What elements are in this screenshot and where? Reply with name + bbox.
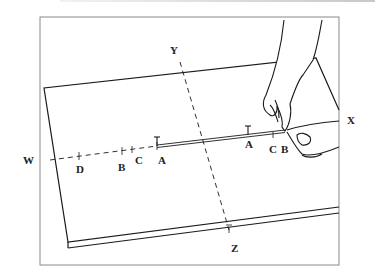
diagram: Y Z W X D B C A A C B <box>0 0 375 276</box>
label-y: Y <box>170 44 178 56</box>
hands-illustration <box>263 20 339 157</box>
label-right-b: B <box>281 143 289 155</box>
label-w: W <box>23 154 34 166</box>
straightedge <box>157 130 285 148</box>
label-left-a: A <box>158 154 166 166</box>
label-x: X <box>347 114 355 126</box>
label-z: Z <box>231 242 238 254</box>
label-left-c: C <box>135 154 143 166</box>
label-right-c: C <box>269 143 277 155</box>
label-left-d: D <box>76 163 84 175</box>
tick-marks-left <box>79 142 157 160</box>
label-left-b: B <box>118 161 126 173</box>
label-right-a: A <box>245 138 253 150</box>
centerline-yz <box>180 62 229 230</box>
